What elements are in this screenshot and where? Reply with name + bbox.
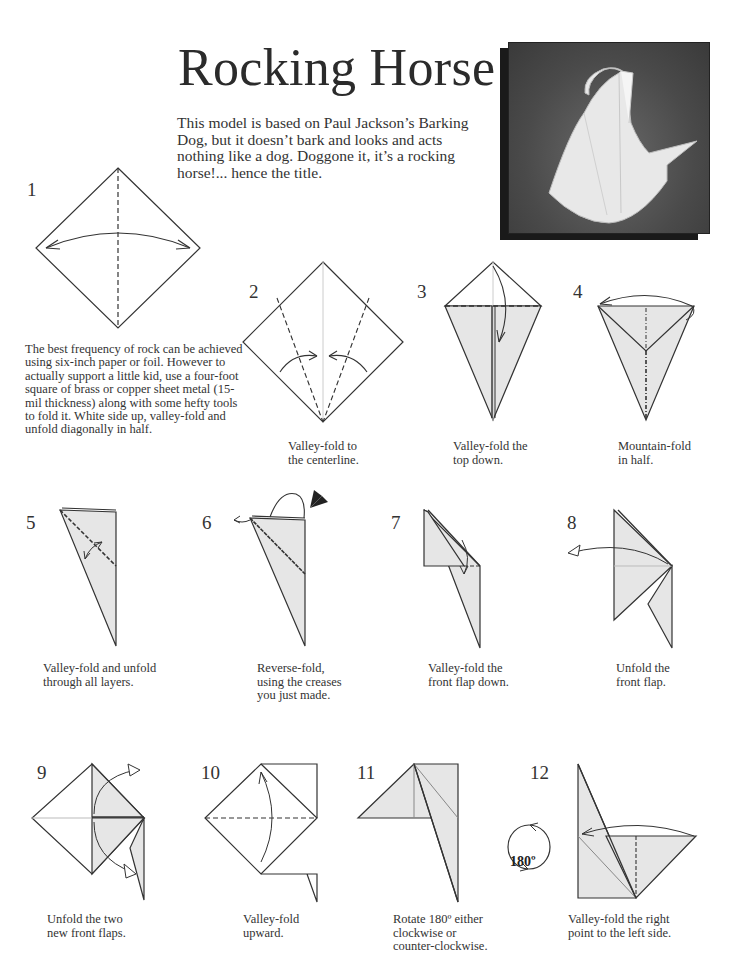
step-2-diagram: [243, 262, 405, 424]
caption-line: Rotate 180º either: [393, 913, 488, 927]
caption-line: Mountain-fold: [618, 440, 691, 454]
step-1-diagram: [36, 168, 200, 332]
step-7-number: 7: [391, 513, 401, 533]
step-3-number: 3: [417, 282, 427, 302]
caption-line: Valley-fold the: [428, 662, 509, 676]
caption-line: the centerline.: [288, 454, 359, 468]
caption-line: Reverse-fold,: [257, 662, 342, 676]
caption-line: Valley-fold the right: [568, 913, 671, 927]
caption-line: in half.: [618, 454, 691, 468]
caption-line: clockwise or: [393, 927, 488, 941]
photo-frame: [508, 42, 710, 234]
rotate-180-label: 180º: [510, 854, 536, 870]
caption-line: Valley-fold the: [453, 440, 528, 454]
caption-line: point to the left side.: [568, 927, 671, 941]
caption-line: front flap.: [616, 676, 670, 690]
step-5-diagram: [60, 506, 120, 648]
page-title: Rocking Horse: [178, 38, 495, 98]
step-9-caption: Unfold the two new front flaps.: [47, 913, 126, 940]
step-1-caption: The best frequency of rock can be achiev…: [25, 343, 245, 437]
intro-text: This model is based on Paul Jackson’s Ba…: [177, 115, 487, 181]
step-4-diagram: [598, 296, 694, 422]
step-12-caption: Valley-fold the right point to the left …: [568, 913, 671, 940]
step-8-caption: Unfold the front flap.: [616, 662, 670, 689]
caption-line: top down.: [453, 454, 528, 468]
caption-line: Valley-fold and unfold: [43, 662, 156, 676]
step-5-number: 5: [26, 513, 36, 533]
caption-line: front flap down.: [428, 676, 509, 690]
step-8-diagram: [566, 508, 678, 650]
caption-line: using the creases: [257, 676, 342, 690]
caption-line: new front flaps.: [47, 927, 126, 941]
model-photo: [500, 42, 710, 240]
step-6-diagram: [230, 490, 330, 650]
caption-line: Unfold the two: [47, 913, 126, 927]
step-7-diagram: [424, 508, 484, 650]
step-7-caption: Valley-fold the front flap down.: [428, 662, 509, 689]
step-6-caption: Reverse-fold, using the creases you just…: [257, 662, 342, 703]
step-10-diagram: [205, 762, 321, 904]
step-12-number: 12: [530, 763, 549, 783]
caption-line: through all layers.: [43, 676, 156, 690]
rocking-horse-photo-illustration: [509, 43, 709, 233]
step-12-diagram: [578, 764, 698, 906]
step-4-caption: Mountain-fold in half.: [618, 440, 691, 467]
step-10-caption: Valley-fold upward.: [243, 913, 299, 940]
step-11-diagram: [358, 762, 458, 904]
step-3-diagram: [445, 262, 541, 422]
caption-line: you just made.: [257, 689, 342, 703]
step-2-caption: Valley-fold to the centerline.: [288, 440, 359, 467]
step-6-number: 6: [202, 513, 212, 533]
step-3-caption: Valley-fold the top down.: [453, 440, 528, 467]
step-11-caption: Rotate 180º either clockwise or counter-…: [393, 913, 488, 954]
caption-line: counter-clockwise.: [393, 940, 488, 954]
caption-line: Valley-fold to: [288, 440, 359, 454]
step-9-diagram: [32, 762, 152, 904]
step-4-number: 4: [573, 282, 583, 302]
step-5-caption: Valley-fold and unfold through all layer…: [43, 662, 156, 689]
caption-line: Unfold the: [616, 662, 670, 676]
caption-line: Valley-fold: [243, 913, 299, 927]
caption-line: upward.: [243, 927, 299, 941]
